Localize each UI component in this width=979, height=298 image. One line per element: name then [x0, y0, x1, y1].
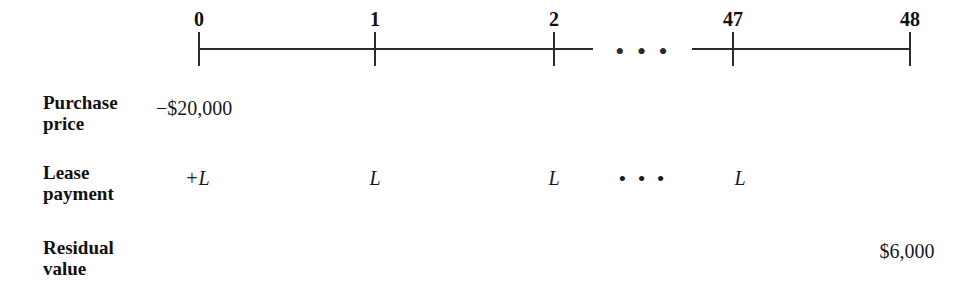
timeline-period-label-0: 0 [194, 9, 204, 29]
lease-payment-period-2: L [548, 168, 559, 188]
lease-payment-period-47: L [734, 168, 745, 188]
timeline-tick-48 [909, 32, 911, 66]
timeline-period-label-2: 2 [549, 9, 559, 29]
cash-flow-timeline-figure: 0124748 • • • Purchase price−$20,000Leas… [0, 0, 979, 298]
timeline-period-label-1: 1 [370, 9, 380, 29]
segment-47-to-48 [692, 48, 910, 50]
timeline-break-ellipsis-icon: • • • [615, 39, 670, 65]
timeline-tick-47 [732, 32, 734, 66]
residual-value-amount: $6,000 [880, 241, 935, 261]
timeline-tick-0 [198, 32, 200, 66]
lease-payment-period-0: +L [185, 168, 210, 188]
lease-payment-period-1: L [369, 168, 380, 188]
purchase-price-value: −$20,000 [156, 98, 232, 118]
timeline-period-label-48: 48 [900, 9, 920, 29]
row-label-purchase-price: Purchase price [43, 92, 118, 134]
lease-payment-ellipsis: • • • [618, 168, 667, 190]
timeline-tick-2 [553, 32, 555, 66]
timeline-tick-1 [374, 32, 376, 66]
row-label-residual-value: Residual value [43, 237, 114, 279]
timeline-period-label-47: 47 [723, 9, 743, 29]
segment-0-to-2 [199, 48, 593, 50]
row-label-lease-payment: Lease payment [43, 162, 114, 204]
